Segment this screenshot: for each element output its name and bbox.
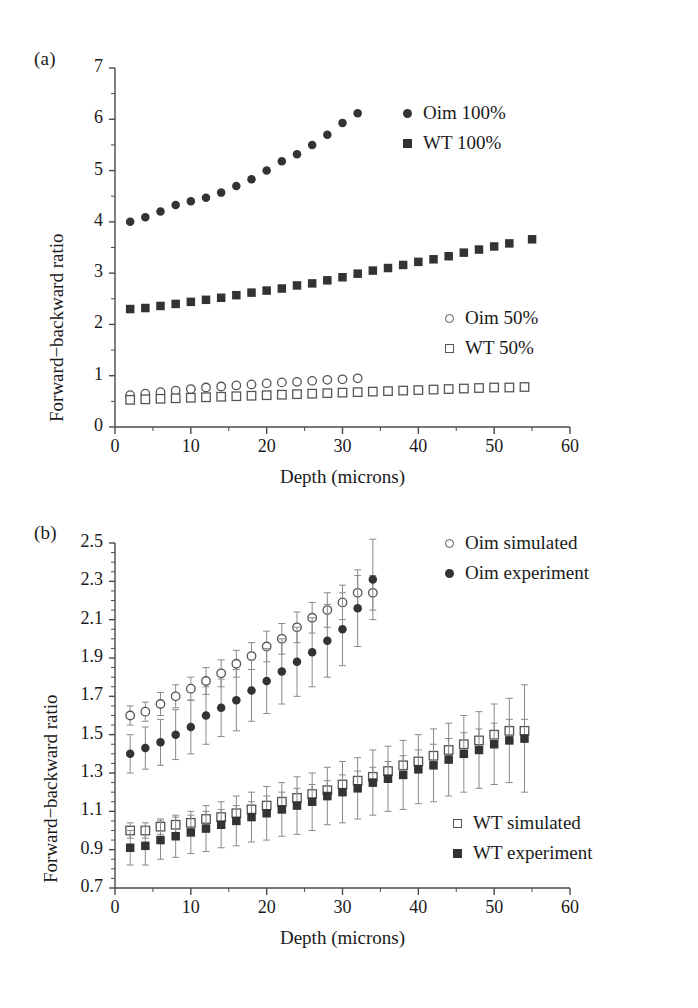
y-tick-label: 1.1 (43, 799, 103, 820)
legend-label: Oim 50% (460, 307, 538, 329)
series-wt-50- (126, 383, 529, 404)
y-tick-label: 1.7 (43, 684, 103, 705)
series-wt-100- (126, 235, 536, 313)
y-tick-label: 1.9 (43, 646, 103, 667)
legend-label: Oim experiment (460, 562, 589, 584)
y-tick-label: 2.1 (43, 608, 103, 629)
y-tick-label: 2.5 (43, 531, 103, 552)
series-oim-100- (126, 109, 362, 226)
legend-label: Oim simulated (460, 532, 577, 554)
legend-item: Oim simulated (438, 528, 589, 558)
y-tick-label: 0 (43, 415, 103, 436)
y-tick-label: 3 (43, 261, 103, 282)
y-tick-label: 2 (43, 312, 103, 333)
legend-item: WT 100% (396, 128, 506, 158)
y-tick-label: 4 (43, 210, 103, 231)
panel-b-legend-oim: Oim simulated Oim experiment (438, 528, 589, 588)
x-tick-label: 60 (545, 436, 595, 457)
legend-item: WT 50% (438, 333, 538, 363)
open-circle-marker-icon (438, 539, 460, 548)
x-tick-label: 50 (469, 436, 519, 457)
legend-item: Oim 100% (396, 98, 506, 128)
x-tick-label: 0 (90, 897, 140, 918)
y-tick-label: 0.9 (43, 838, 103, 859)
legend-label: Oim 100% (418, 102, 506, 124)
x-tick-label: 40 (393, 897, 443, 918)
legend-item: Oim 50% (438, 303, 538, 333)
y-tick-label: 0.7 (43, 876, 103, 897)
panel-a-legend-100: Oim 100% WT 100% (396, 98, 506, 158)
y-tick-label: 5 (43, 159, 103, 180)
y-tick-label: 1.3 (43, 761, 103, 782)
chart-panel-a: (a) Forward−backward ratio Depth (micron… (0, 0, 698, 500)
x-tick-label: 60 (545, 897, 595, 918)
open-circle-marker-icon (438, 314, 460, 323)
x-tick-label: 0 (90, 436, 140, 457)
x-tick-label: 30 (318, 897, 368, 918)
open-square-marker-icon (446, 819, 468, 828)
x-tick-label: 10 (166, 897, 216, 918)
x-tick-label: 20 (242, 436, 292, 457)
legend-item: WT experiment (446, 838, 592, 868)
filled-circle-marker-icon (396, 109, 418, 118)
panel-b-plot-area (0, 500, 698, 1008)
filled-square-marker-icon (446, 849, 468, 858)
legend-label: WT simulated (468, 812, 581, 834)
y-tick-label: 7 (43, 56, 103, 77)
chart-panel-b: (b) Forward−backward ratio Depth (micron… (0, 500, 698, 1008)
y-tick-label: 2.3 (43, 569, 103, 590)
legend-label: WT 100% (418, 132, 501, 154)
panel-a-plot-area (0, 0, 698, 500)
filled-square-marker-icon (396, 139, 418, 148)
x-tick-label: 10 (166, 436, 216, 457)
figure-container: (a) Forward−backward ratio Depth (micron… (0, 0, 698, 1008)
legend-label: WT experiment (468, 842, 592, 864)
panel-a-legend-50: Oim 50% WT 50% (438, 303, 538, 363)
x-tick-label: 30 (318, 436, 368, 457)
y-tick-label: 1.5 (43, 723, 103, 744)
open-square-marker-icon (438, 344, 460, 353)
filled-circle-marker-icon (438, 569, 460, 578)
legend-label: WT 50% (460, 337, 534, 359)
x-tick-label: 20 (242, 897, 292, 918)
y-tick-label: 1 (43, 364, 103, 385)
legend-item: Oim experiment (438, 558, 589, 588)
legend-item: WT simulated (446, 808, 592, 838)
y-tick-label: 6 (43, 107, 103, 128)
x-tick-label: 40 (393, 436, 443, 457)
panel-b-legend-wt: WT simulated WT experiment (446, 808, 592, 868)
x-tick-label: 50 (469, 897, 519, 918)
